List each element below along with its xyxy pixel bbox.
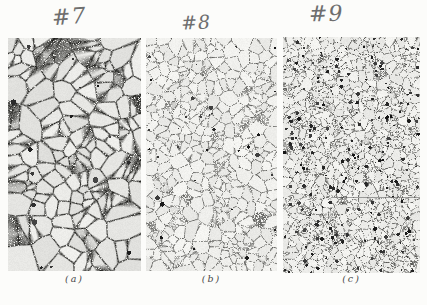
caption-c: (c) xyxy=(283,273,420,284)
micrograph-panel-a xyxy=(8,38,141,271)
sample-label-8: #8 xyxy=(180,10,211,34)
caption-a: (a) xyxy=(8,273,141,284)
sample-label-9: #9 xyxy=(309,0,344,26)
micrograph-panel-b xyxy=(146,38,277,271)
caption-b: (b) xyxy=(146,273,277,284)
micrograph-image-c xyxy=(283,37,420,273)
micrograph-image-b xyxy=(146,38,277,271)
micrograph-panel-c xyxy=(283,37,420,273)
sample-label-7: #7 xyxy=(51,3,87,30)
micrograph-image-a xyxy=(8,38,141,271)
figure-page: #7 #8 #9 (a) (b) (c) xyxy=(0,0,427,305)
